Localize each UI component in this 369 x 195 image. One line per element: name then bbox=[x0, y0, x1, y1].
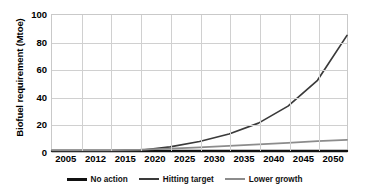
y-axis-tick-labels: 020406080100 bbox=[19, 0, 47, 195]
legend-item-label: Lower growth bbox=[249, 175, 303, 184]
x-axis-tick-labels: 2005201220152020202520302035204020452050 bbox=[51, 153, 348, 169]
y-axis-tick-label: 0 bbox=[19, 147, 47, 158]
vertical-gridline bbox=[201, 15, 202, 151]
legend-line-swatch-icon bbox=[225, 178, 245, 180]
legend-line-swatch-icon bbox=[139, 178, 159, 180]
legend-item-label: No action bbox=[91, 175, 128, 184]
y-axis-tick-label: 20 bbox=[19, 119, 47, 130]
y-axis-tick-label: 80 bbox=[19, 36, 47, 47]
legend-item[interactable]: No action bbox=[67, 175, 128, 184]
horizontal-gridline bbox=[52, 43, 347, 44]
legend-item-label: Hitting target bbox=[163, 175, 214, 184]
vertical-gridline bbox=[111, 15, 112, 151]
x-axis-tick-label: 2012 bbox=[85, 153, 106, 164]
x-axis-tick-label: 2005 bbox=[55, 153, 76, 164]
legend-line-swatch-icon bbox=[67, 178, 87, 181]
x-axis-tick-label: 2025 bbox=[174, 153, 195, 164]
series-lines bbox=[52, 15, 347, 151]
vertical-gridline bbox=[260, 15, 261, 151]
y-axis-tick-label: 100 bbox=[19, 9, 47, 20]
vertical-gridline bbox=[141, 15, 142, 151]
x-axis-tick-label: 2015 bbox=[115, 153, 136, 164]
biofuel-requirement-line-chart: Biofuel requirement (Mtoe) 020406080100 … bbox=[0, 0, 369, 195]
vertical-gridline bbox=[319, 15, 320, 151]
x-axis-tick-label: 2040 bbox=[263, 153, 284, 164]
x-axis-tick-label: 2035 bbox=[233, 153, 254, 164]
chart-legend: No actionHitting targetLower growth bbox=[0, 172, 369, 186]
horizontal-gridline bbox=[52, 70, 347, 71]
legend-item[interactable]: Lower growth bbox=[225, 175, 303, 184]
horizontal-gridline bbox=[52, 125, 347, 126]
vertical-gridline bbox=[290, 15, 291, 151]
vertical-gridline bbox=[82, 15, 83, 151]
y-axis-tick-label: 60 bbox=[19, 64, 47, 75]
legend-item[interactable]: Hitting target bbox=[139, 175, 214, 184]
vertical-gridline bbox=[230, 15, 231, 151]
x-axis-tick-label: 2045 bbox=[293, 153, 314, 164]
x-axis-tick-label: 2030 bbox=[204, 153, 225, 164]
x-axis-tick-label: 2020 bbox=[144, 153, 165, 164]
horizontal-gridline bbox=[52, 98, 347, 99]
vertical-gridline bbox=[171, 15, 172, 151]
plot-area bbox=[51, 14, 348, 152]
x-axis-tick-label: 2050 bbox=[323, 153, 344, 164]
y-axis-tick-label: 40 bbox=[19, 91, 47, 102]
series-line bbox=[52, 35, 347, 151]
